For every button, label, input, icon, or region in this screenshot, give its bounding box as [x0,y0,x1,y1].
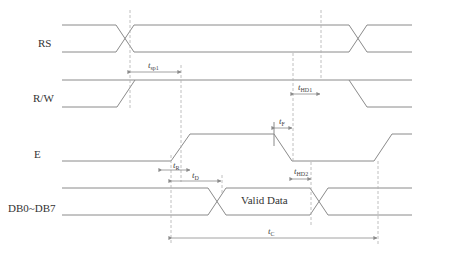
thd2-label: tHD2 [294,166,308,177]
signal-label-db: DB0~DB7 [8,202,56,214]
timing-diagram: RS R/W E DB0~DB7 Valid Data tsp1 tHD1 tF… [0,0,474,257]
signal-label-e: E [34,148,41,160]
tf-label: tF [279,116,286,127]
tsp1-label: tsp1 [148,60,159,71]
db-waveform [62,188,412,215]
tr-label: tR [173,160,180,171]
e-waveform [62,122,412,161]
thd1-label: tHD1 [298,82,312,93]
tc-label: tC [268,226,275,237]
rw-waveform [62,80,412,107]
signal-label-rs: RS [38,37,51,49]
valid-data-label: Valid Data [241,194,288,206]
rs-waveform [62,25,412,52]
td-label: tD [192,170,200,181]
signal-label-rw: R/W [33,92,54,104]
